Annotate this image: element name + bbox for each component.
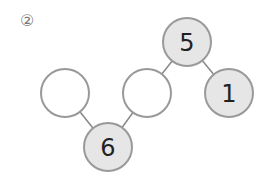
diagram-canvas: 5 1 6 <box>0 0 265 176</box>
svg-text:6: 6 <box>100 134 115 162</box>
node-top: 5 <box>163 18 211 66</box>
node-left-empty[interactable] <box>41 69 89 117</box>
node-right: 1 <box>205 69 253 117</box>
node-bottom: 6 <box>84 123 132 171</box>
node-mid-empty[interactable] <box>123 69 171 117</box>
svg-text:1: 1 <box>221 80 236 108</box>
number-bond-diagram: ② 5 1 6 <box>0 0 265 176</box>
svg-text:5: 5 <box>179 29 194 57</box>
